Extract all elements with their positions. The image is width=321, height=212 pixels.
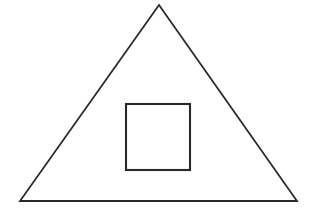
canvas-background [0,0,321,212]
figure-canvas [0,0,321,212]
geometry-drawing [0,0,321,212]
